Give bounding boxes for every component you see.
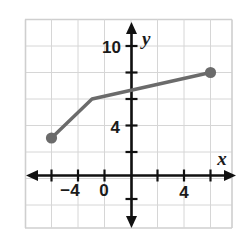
x-axis-label: x [216,148,227,169]
y-tick-label-4: 4 [111,118,121,137]
x-tick-label-4: 4 [179,183,189,202]
graph-canvas: 0 −4 4 4 10 y x [0,0,247,246]
y-axis-label: y [140,28,151,49]
figure-background [0,0,247,246]
x-tick-label-0: 0 [99,181,108,200]
y-tick-label-10: 10 [102,38,121,57]
endpoint-dot-left [46,132,57,143]
coordinate-plane-figure: 0 −4 4 4 10 y x [0,0,247,246]
endpoint-dot-right [205,67,216,78]
x-tick-label-neg4: −4 [60,181,80,200]
